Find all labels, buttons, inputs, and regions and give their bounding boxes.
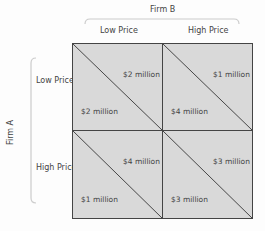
firm-a-label: Firm A [6,120,15,145]
cell-high-high: $3 million $3 million [162,130,253,219]
firm-b-strategy-high: High Price [188,26,228,35]
payoff-firm-b: $1 million [213,70,250,79]
diagonal-line [73,131,162,218]
payoff-firm-b: $4 million [123,157,160,166]
firm-a-strategy-high: High Price [36,163,76,172]
cell-high-low: $4 million $1 million [72,130,163,219]
cell-low-low: $2 million $2 million [72,43,163,131]
payoff-firm-a: $4 million [171,107,208,116]
diagonal-line [163,44,252,130]
payoff-firm-b: $2 million [123,70,160,79]
payoff-firm-a: $2 million [81,107,118,116]
firm-b-bracket [84,17,240,25]
diagonal-line [73,44,162,130]
firm-b-label: Firm B [150,5,175,14]
payoff-firm-a: $1 million [81,195,118,204]
firm-b-strategy-low: Low Price [100,26,138,35]
payoff-firm-a: $3 million [171,195,208,204]
payoff-firm-b: $3 million [213,157,250,166]
cell-low-high: $1 million $4 million [162,43,253,131]
firm-a-strategy-low: Low Price [36,76,74,85]
diagonal-line [163,131,252,218]
